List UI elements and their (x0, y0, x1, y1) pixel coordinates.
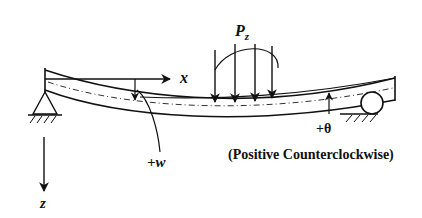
x-axis-label: x (179, 69, 188, 86)
rotation-label: +θ (316, 121, 331, 136)
deflection-marker (135, 79, 160, 152)
deflection-label: +w (147, 154, 167, 170)
pin-support (28, 92, 62, 123)
rotation-note: (Positive Counterclockwise) (228, 147, 394, 163)
beam-diagram: x +w Pz +θ (Positive Counterclockwise) (0, 0, 422, 218)
z-axis-label: z (39, 195, 46, 211)
beam (45, 68, 395, 117)
load-label: Pz (234, 22, 250, 42)
distributed-load (215, 44, 278, 102)
